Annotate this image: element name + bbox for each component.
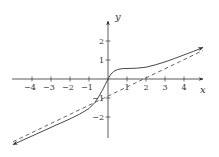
ticks: −4−3−2−1123421−1−2: [24, 37, 186, 122]
x-tick-label: −2: [62, 83, 74, 92]
y-tick-label: 1: [99, 56, 104, 65]
x-tick-label: 2: [143, 83, 148, 92]
x-tick-label: 3: [162, 83, 167, 92]
x-tick-label: 4: [181, 83, 186, 92]
y-tick-label: −2: [92, 113, 104, 122]
x-axis-label: x: [200, 84, 206, 95]
x-tick-label: 1: [124, 83, 129, 92]
y-tick-label: 2: [99, 37, 104, 46]
x-tick-label: −1: [81, 83, 93, 92]
x-tick-label: −3: [43, 83, 55, 92]
chart: −4−3−2−1123421−1−2 x y: [0, 0, 219, 157]
y-axis-label: y: [114, 11, 121, 22]
x-tick-label: −4: [24, 83, 36, 92]
